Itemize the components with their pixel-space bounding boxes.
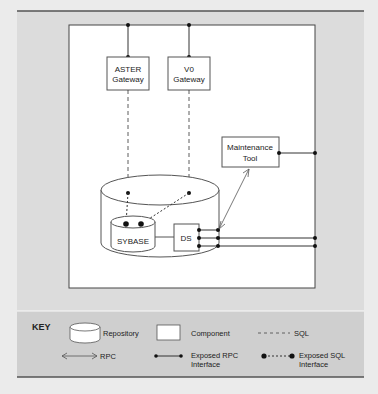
key-exposed-sql-label-1: Exposed SQL	[299, 351, 345, 360]
repository-icon	[70, 323, 100, 343]
key-title: KEY	[32, 322, 51, 332]
key-exposed-sql-label-2: Interface	[299, 360, 328, 369]
key-exposed-rpc-label-2: Interface	[191, 360, 220, 369]
sybase-label: SYBASE	[117, 237, 149, 246]
sybase-repository: SYBASE	[111, 216, 155, 252]
v0-gateway-label-2: Gateway	[173, 75, 205, 84]
key-component-label: Component	[191, 329, 231, 338]
key-sql-label: SQL	[294, 329, 309, 338]
aster-gateway-label-1: ASTER	[115, 65, 142, 74]
maintenance-tool-component: Maintenance Tool	[222, 137, 279, 167]
component-icon	[157, 325, 180, 340]
v0-gateway-label-1: V0	[184, 65, 194, 74]
ds-component: DS	[174, 224, 199, 251]
v0-gateway-component: V0 Gateway	[168, 57, 210, 90]
aster-gateway-label-2: Gateway	[112, 75, 144, 84]
key-rpc-label: RPC	[100, 352, 116, 361]
maintenance-tool-label-1: Maintenance	[227, 143, 273, 152]
architecture-diagram: ASTER Gateway V0 Gateway Maintenance Too…	[0, 0, 378, 394]
ds-label: DS	[180, 234, 191, 243]
aster-gateway-component: ASTER Gateway	[107, 57, 149, 90]
key-repository-label: Repository	[103, 329, 139, 338]
key-exposed-rpc-label-1: Exposed RPC	[191, 351, 239, 360]
maintenance-tool-label-2: Tool	[243, 154, 258, 163]
